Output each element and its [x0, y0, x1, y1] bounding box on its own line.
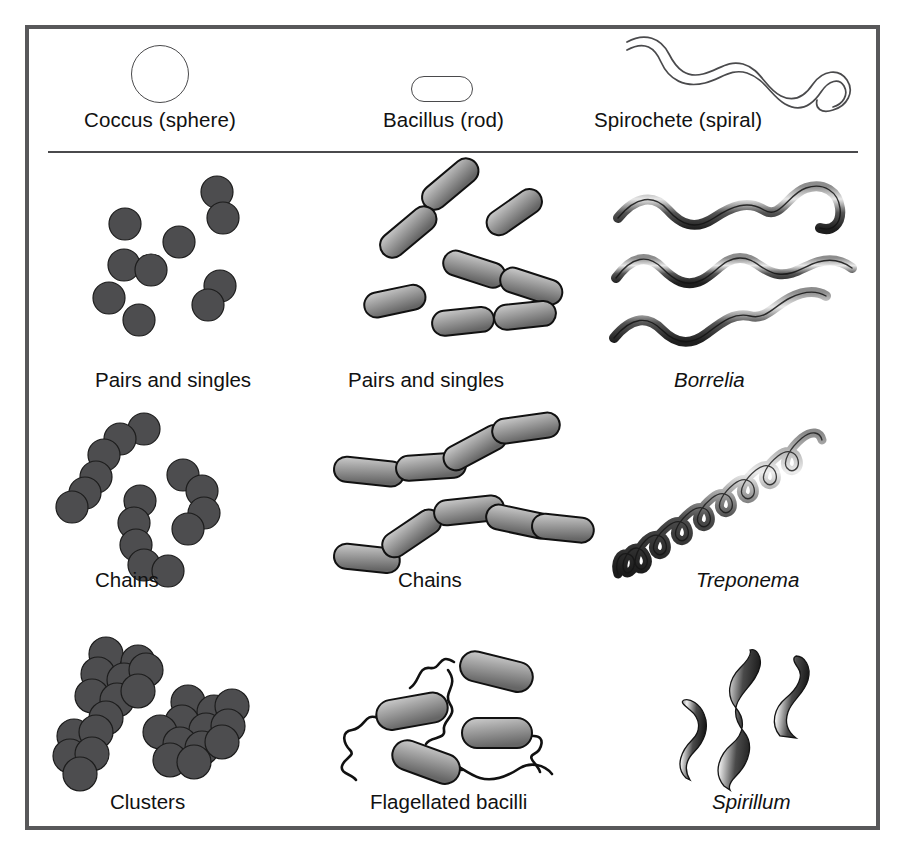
cell-label-r1c1: Pairs and singles	[95, 368, 251, 392]
treponema-spirochete-icon	[612, 398, 874, 578]
cell-label-r1c3: Borrelia	[674, 368, 745, 392]
wavy-spiral-outline-icon	[615, 30, 885, 150]
header-label-coccus: Coccus (sphere)	[84, 108, 236, 132]
header-label-bacillus: Bacillus (rod)	[383, 108, 504, 132]
borrelia-spirochete-icon	[612, 170, 874, 355]
header-divider	[48, 151, 858, 153]
cell-label-r2c3: Treponema	[696, 568, 799, 592]
coccus-chains-icon	[52, 405, 282, 575]
cell-label-r3c1: Clusters	[110, 790, 185, 814]
header-label-spirochete: Spirochete (spiral)	[594, 108, 762, 132]
coccus-clusters-icon	[42, 608, 286, 788]
flagellated-bacilli-icon	[330, 608, 592, 790]
cell-label-r1c2: Pairs and singles	[348, 368, 504, 392]
coccus-pairs-singles-icon	[95, 170, 295, 355]
circle-outline-icon	[131, 45, 189, 103]
cell-label-r3c3: Spirillum	[712, 790, 791, 814]
cell-label-r2c2: Chains	[398, 568, 462, 592]
spirillum-icon	[640, 600, 870, 790]
bacillus-pairs-singles-icon	[348, 170, 578, 355]
bacillus-chains-icon	[330, 405, 582, 577]
rounded-rod-outline-icon	[411, 76, 473, 102]
cell-label-r3c2: Flagellated bacilli	[370, 790, 527, 814]
bacterial-morphology-figure: Coccus (sphere) Bacillus (rod) Spirochet…	[0, 0, 905, 849]
cell-label-r2c1: Chains	[95, 568, 159, 592]
